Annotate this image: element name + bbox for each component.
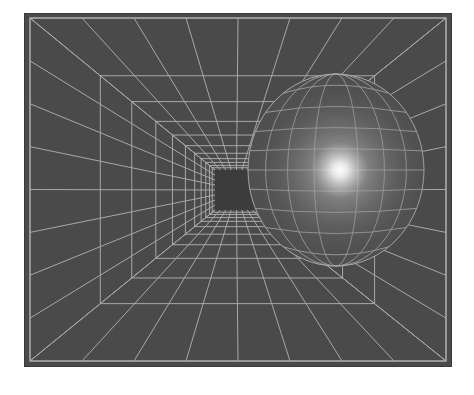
sphere bbox=[242, 68, 430, 272]
tunnel-grid-image bbox=[0, 0, 474, 395]
